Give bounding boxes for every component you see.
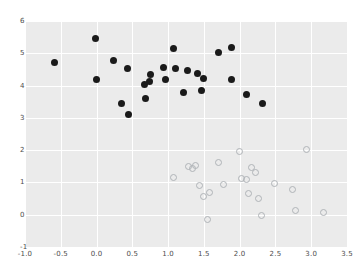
data-point-cluster-1 bbox=[92, 35, 99, 42]
data-point-cluster-2 bbox=[220, 181, 227, 188]
y-axis-tick-label: 6 bbox=[20, 17, 25, 25]
data-point-cluster-1 bbox=[215, 49, 222, 56]
gridline-vertical bbox=[168, 21, 169, 247]
data-point-cluster-1 bbox=[147, 71, 154, 78]
data-point-cluster-2 bbox=[204, 216, 211, 223]
gridline-horizontal bbox=[25, 182, 347, 183]
y-axis-tick-label: 4 bbox=[20, 82, 25, 90]
data-point-cluster-1 bbox=[228, 44, 235, 51]
data-point-cluster-2 bbox=[320, 209, 327, 216]
data-point-cluster-2 bbox=[192, 162, 199, 169]
x-axis-tick-label: 3.0 bbox=[305, 250, 317, 258]
gridline-horizontal bbox=[25, 86, 347, 87]
gridline-vertical bbox=[240, 21, 241, 247]
data-point-cluster-2 bbox=[271, 180, 278, 187]
x-axis-tick-label: 0.0 bbox=[91, 250, 103, 258]
data-point-cluster-2 bbox=[255, 195, 262, 202]
scatter-plot-figure: -1.0-0.50.00.51.01.52.02.53.03.5-1012345… bbox=[0, 0, 363, 273]
data-point-cluster-2 bbox=[252, 169, 259, 176]
data-point-cluster-2 bbox=[236, 148, 243, 155]
y-axis-tick-label: 1 bbox=[20, 178, 25, 186]
y-axis-tick-label: 3 bbox=[20, 114, 25, 122]
data-point-cluster-1 bbox=[125, 111, 132, 118]
gridline-vertical bbox=[204, 21, 205, 247]
gridline-horizontal bbox=[25, 118, 347, 119]
y-axis-tick-label: -1 bbox=[20, 243, 27, 251]
x-axis-tick-label: 2.0 bbox=[234, 250, 246, 258]
data-point-cluster-2 bbox=[196, 182, 203, 189]
gridline-vertical bbox=[275, 21, 276, 247]
y-axis-tick-label: 2 bbox=[20, 146, 25, 154]
data-point-cluster-1 bbox=[93, 76, 100, 83]
gridline-horizontal bbox=[25, 215, 347, 216]
x-axis-tick-label: 1.0 bbox=[162, 250, 174, 258]
data-point-cluster-1 bbox=[200, 75, 207, 82]
x-axis-tick-label: 2.5 bbox=[270, 250, 282, 258]
data-point-cluster-2 bbox=[303, 146, 310, 153]
x-axis-tick-label: 0.5 bbox=[126, 250, 138, 258]
x-axis-tick-label: 1.5 bbox=[198, 250, 210, 258]
data-point-cluster-1 bbox=[243, 91, 250, 98]
gridline-horizontal bbox=[25, 21, 347, 22]
y-axis-tick-label: 5 bbox=[20, 49, 25, 57]
data-point-cluster-2 bbox=[289, 186, 296, 193]
data-point-cluster-1 bbox=[118, 100, 125, 107]
gridline-vertical bbox=[61, 21, 62, 247]
gridline-vertical bbox=[132, 21, 133, 247]
data-point-cluster-1 bbox=[142, 95, 149, 102]
data-point-cluster-2 bbox=[243, 176, 250, 183]
data-point-cluster-1 bbox=[259, 100, 266, 107]
y-axis-tick-label: 0 bbox=[20, 211, 25, 219]
data-point-cluster-2 bbox=[206, 189, 213, 196]
gridline-horizontal bbox=[25, 53, 347, 54]
data-point-cluster-1 bbox=[124, 65, 131, 72]
data-point-cluster-1 bbox=[228, 76, 235, 83]
data-point-cluster-1 bbox=[184, 67, 191, 74]
data-point-cluster-1 bbox=[110, 57, 117, 64]
x-axis-tick-label: -0.5 bbox=[54, 250, 68, 258]
data-point-cluster-1 bbox=[146, 78, 153, 85]
data-point-cluster-1 bbox=[170, 45, 177, 52]
data-point-cluster-2 bbox=[258, 212, 265, 219]
data-point-cluster-2 bbox=[170, 174, 177, 181]
gridline-vertical bbox=[311, 21, 312, 247]
plot-area bbox=[25, 21, 347, 247]
gridline-horizontal bbox=[25, 150, 347, 151]
data-point-cluster-2 bbox=[292, 207, 299, 214]
data-point-cluster-1 bbox=[198, 87, 205, 94]
data-point-cluster-1 bbox=[180, 89, 187, 96]
gridline-vertical bbox=[25, 21, 26, 247]
data-point-cluster-2 bbox=[245, 190, 252, 197]
data-point-cluster-1 bbox=[51, 59, 58, 66]
x-axis-tick-label: -1.0 bbox=[18, 250, 32, 258]
data-point-cluster-2 bbox=[215, 159, 222, 166]
data-point-cluster-1 bbox=[162, 76, 169, 83]
data-point-cluster-1 bbox=[160, 64, 167, 71]
data-point-cluster-1 bbox=[172, 65, 179, 72]
gridline-vertical bbox=[97, 21, 98, 247]
x-axis-tick-label: 3.5 bbox=[341, 250, 353, 258]
